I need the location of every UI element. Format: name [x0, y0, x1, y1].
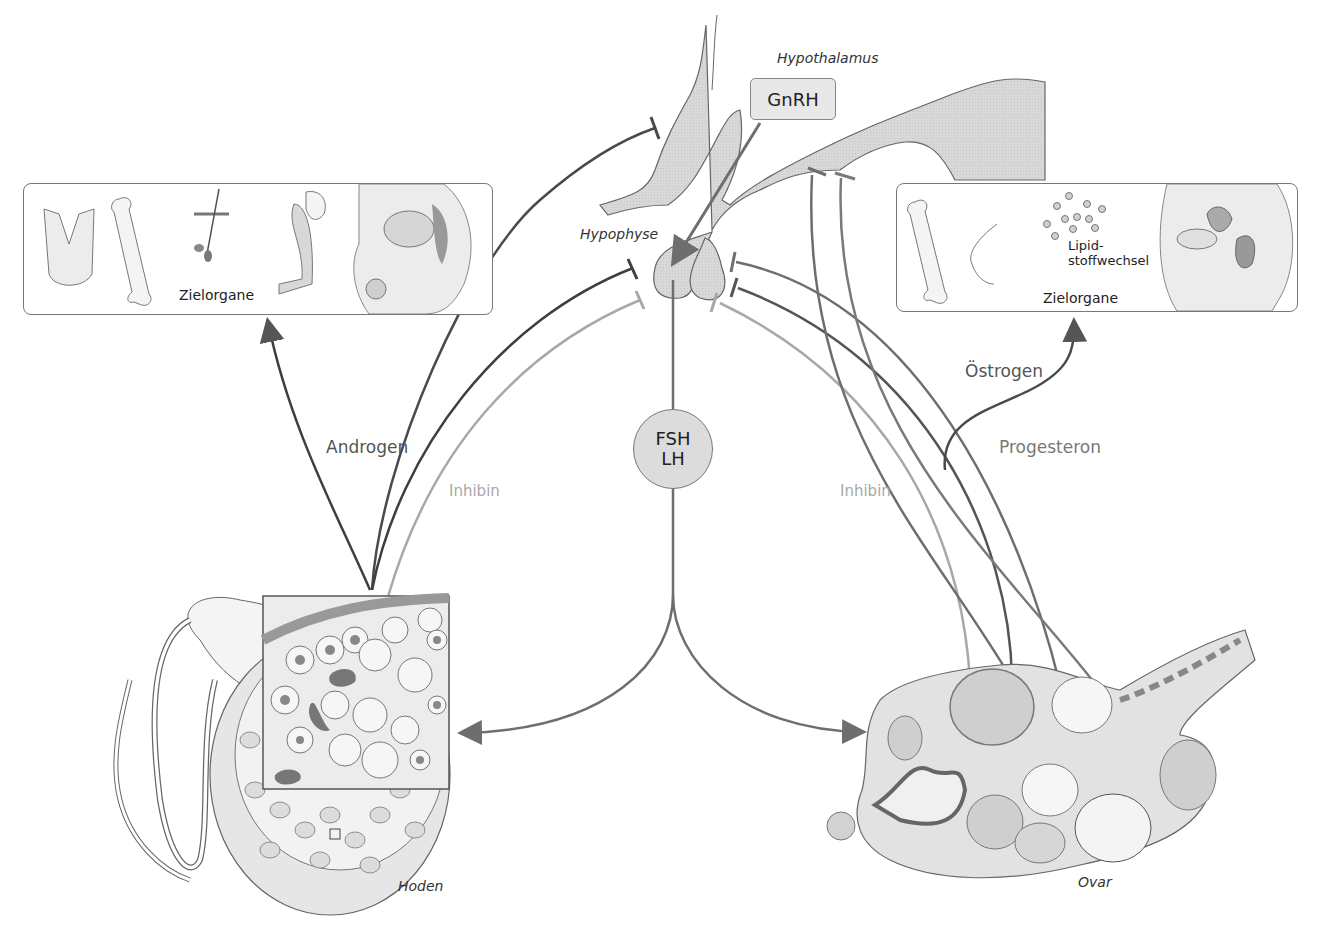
- gnrh-label: GnRH: [767, 89, 818, 110]
- inhibit-bar: [731, 252, 735, 272]
- female-target-organs-panel: Lipid- stoffwechsel Zielorgane: [896, 183, 1298, 312]
- breast-icon: [971, 224, 997, 284]
- female-pelvis-icon: [1160, 184, 1293, 311]
- testis-magnified-tissue: [263, 596, 449, 789]
- ovary-illustration: [827, 630, 1255, 878]
- oestrogen-label: Östrogen: [965, 361, 1043, 381]
- fsh-lh-node: FSH LH: [633, 409, 713, 489]
- male-pelvis-icon: [354, 184, 471, 314]
- lh-label: LH: [661, 449, 685, 469]
- hypophyse-shape: [654, 232, 725, 300]
- inhibit-bar: [731, 278, 737, 297]
- female-zielorgane-caption: Zielorgane: [1043, 290, 1118, 306]
- fshlh-to-hoden-arrow: [462, 487, 673, 733]
- fshlh-to-ovar-arrow: [673, 595, 862, 732]
- inhibit-bar: [835, 173, 855, 179]
- male-target-organ-illustrations: [24, 184, 492, 314]
- lipid-droplets-icon: [1044, 193, 1106, 240]
- larynx-icon: [44, 209, 94, 285]
- lipid-label-line1: Lipid-: [1068, 238, 1104, 253]
- femur-icon: [112, 198, 151, 306]
- male-target-organs-panel: Zielorgane: [23, 183, 493, 315]
- lipid-label-line2: stoffwechsel: [1068, 253, 1149, 268]
- androgen-to-hypophyse-inhibit: [372, 268, 633, 590]
- lipid-label: Lipid- stoffwechsel: [1068, 238, 1149, 268]
- arm-muscle-icon: [279, 191, 325, 294]
- androgen-label: Androgen: [326, 437, 408, 457]
- progesteron-label: Progesteron: [999, 437, 1101, 457]
- male-zielorgane-caption: Zielorgane: [179, 287, 254, 303]
- femur-icon: [908, 200, 947, 303]
- inhibin-left-label: Inhibin: [449, 482, 500, 500]
- ovar-label: Ovar: [1078, 874, 1112, 890]
- inhibin-right-label: Inhibin: [840, 482, 891, 500]
- fsh-label: FSH: [656, 429, 691, 449]
- gnrh-node: GnRH: [750, 78, 836, 120]
- hypothalamus-label: Hypothalamus: [777, 50, 878, 66]
- hoden-label: Hoden: [398, 878, 443, 894]
- progesteron-to-hypophyse-inhibit: [736, 262, 1060, 685]
- hypophyse-label: Hypophyse: [580, 226, 658, 242]
- hair-follicle-icon: [194, 189, 229, 262]
